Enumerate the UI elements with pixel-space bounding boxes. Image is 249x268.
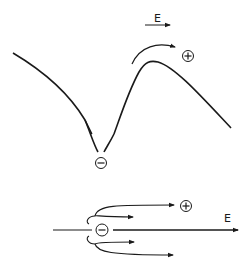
escape-hook-lower	[87, 236, 95, 244]
positive-charge-top	[183, 51, 194, 62]
potential-curve	[13, 53, 231, 134]
negative-charge-top	[96, 158, 107, 169]
positive-charge-bottom	[181, 201, 192, 212]
escape-hook-upper	[87, 216, 95, 224]
escape-path-lower-short	[95, 242, 134, 244]
field-label-bottom: E	[224, 212, 231, 225]
bottom-panel: E	[53, 201, 238, 256]
potential-well	[85, 120, 114, 152]
escape-path-lower-long	[95, 244, 173, 255]
diagram-canvas: E E	[0, 0, 249, 268]
escape-path-upper-long	[95, 205, 174, 216]
negative-charge-bottom	[96, 224, 108, 236]
top-panel: E	[13, 12, 231, 169]
escape-path-upper-short	[95, 216, 133, 217]
field-label-top: E	[154, 12, 161, 25]
